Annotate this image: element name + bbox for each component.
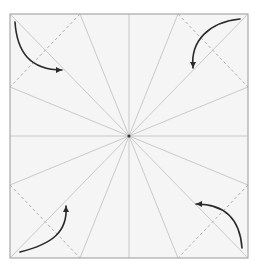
origami-crease-diagram — [0, 0, 255, 270]
center-point — [127, 134, 130, 137]
